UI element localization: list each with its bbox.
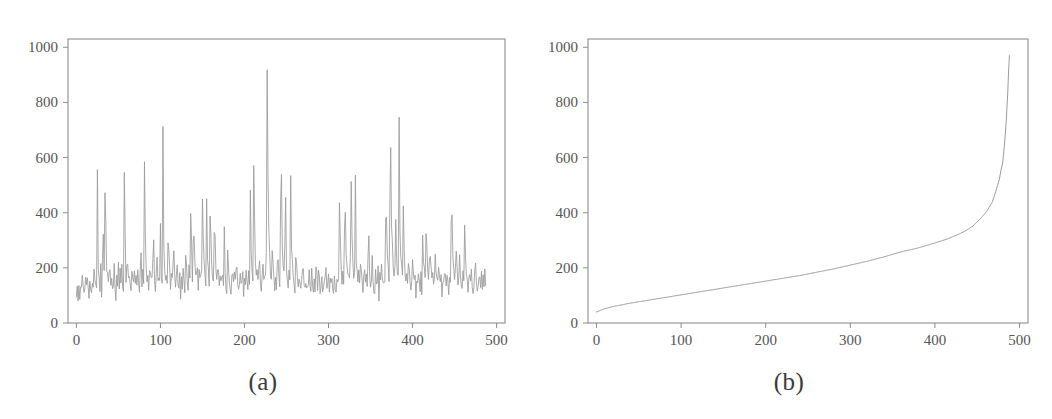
panel-a-caption: (a) bbox=[0, 368, 526, 396]
panel-b-caption: (b) bbox=[526, 368, 1052, 396]
panel-a: (a) bbox=[0, 0, 526, 419]
panel-b: (b) bbox=[526, 0, 1052, 419]
